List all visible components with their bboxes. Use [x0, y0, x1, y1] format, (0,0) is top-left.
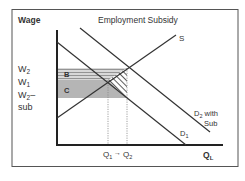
y-axis-label: Wage [18, 15, 41, 25]
employment-subsidy-diagram: Employment Subsidy Wage QL W2 W1 W2– sub… [0, 0, 245, 181]
area-b-label: B [64, 70, 70, 79]
area-c-label: C [64, 86, 70, 95]
wage-label-sub: sub [18, 102, 33, 112]
shift-arrow-icon: → [114, 149, 121, 156]
supply-label: S [179, 34, 184, 43]
d2-label: D2 with [194, 109, 218, 119]
diagram-title: Employment Subsidy [98, 15, 179, 25]
d2-label-sub: Sub [204, 119, 217, 128]
